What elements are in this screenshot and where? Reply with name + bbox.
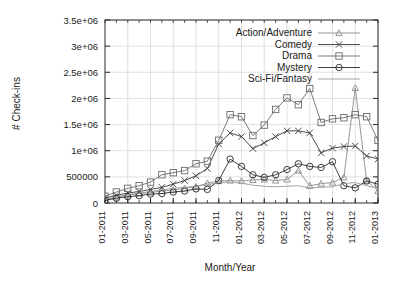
x-axis-title: Month/Year: [150, 262, 310, 273]
chart-plot-area: 05000001e+061.5e+062e+062.5e+063e+063.5e…: [0, 0, 407, 289]
x-tick-label: 07-2011: [165, 211, 175, 243]
x-tick-label: 01-2011: [97, 211, 107, 243]
legend-label: Sci-Fi/Fantasy: [248, 73, 312, 84]
y-tick-label: 3e+06: [71, 41, 98, 52]
legend-label: Comedy: [275, 39, 312, 50]
x-tick-label: 09-2011: [188, 211, 198, 243]
x-tick-label: 01-2012: [234, 211, 244, 244]
x-tick-label: 03-2011: [120, 211, 130, 243]
x-tick-label: 01-2013: [370, 211, 380, 244]
chart-legend: Action/AdventureComedyDramaMysterySci-Fi…: [236, 27, 360, 84]
y-tick-label: 2.5e+06: [63, 67, 98, 78]
y-tick-label: 1.5e+06: [63, 119, 98, 130]
x-tick-label: 11-2011: [211, 211, 221, 243]
x-tick-label: 07-2012: [302, 211, 312, 244]
y-axis-title-label: # Check-ins: [11, 77, 22, 130]
x-tick-label: 03-2012: [256, 211, 266, 244]
x-tick-label: 05-2012: [279, 211, 289, 244]
y-tick-label: 1e+06: [71, 145, 98, 156]
grid-lines: [105, 20, 378, 203]
legend-label: Drama: [282, 50, 312, 61]
x-tick-label: 11-2012: [347, 211, 357, 243]
x-tick-label: 05-2011: [143, 211, 153, 243]
y-tick-label: 2e+06: [71, 93, 98, 104]
legend-label: Mystery: [277, 62, 312, 73]
y-tick-label: 0: [93, 198, 98, 209]
chart-figure: 05000001e+061.5e+062e+062.5e+063e+063.5e…: [0, 0, 407, 289]
legend-label: Action/Adventure: [236, 27, 313, 38]
y-axis-title: # Check-ins: [11, 64, 22, 144]
x-tick-label: 09-2012: [325, 211, 335, 244]
x-axis-title-label: Month/Year: [205, 262, 256, 273]
y-tick-label: 3.5e+06: [63, 15, 98, 26]
y-tick-label: 500000: [66, 171, 98, 182]
